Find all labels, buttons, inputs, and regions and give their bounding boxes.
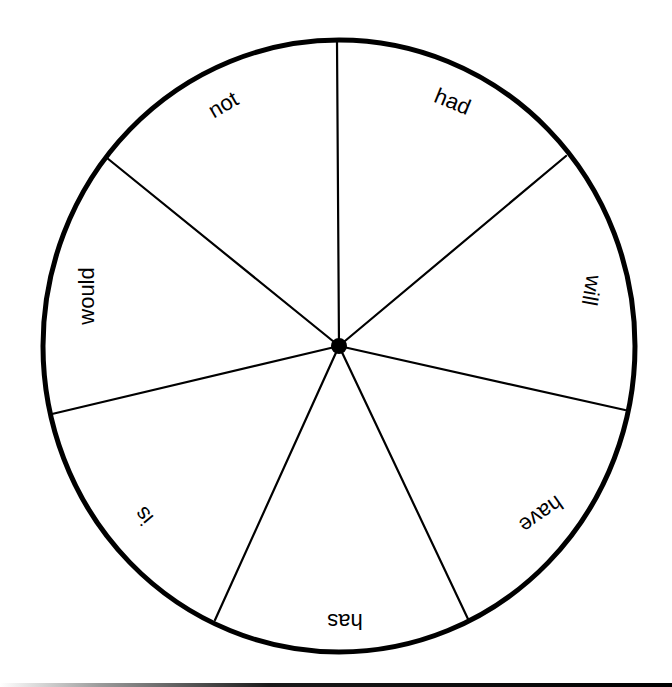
wheel-hub-icon[interactable] (331, 338, 347, 354)
spinner-wheel[interactable]: had will have has is would not (0, 0, 672, 687)
sector-label-has: has (327, 609, 362, 634)
bottom-edge-divider (0, 683, 672, 687)
spinner-wheel-canvas: had will have has is would not (0, 0, 672, 687)
sector-label-would: would (74, 267, 99, 325)
